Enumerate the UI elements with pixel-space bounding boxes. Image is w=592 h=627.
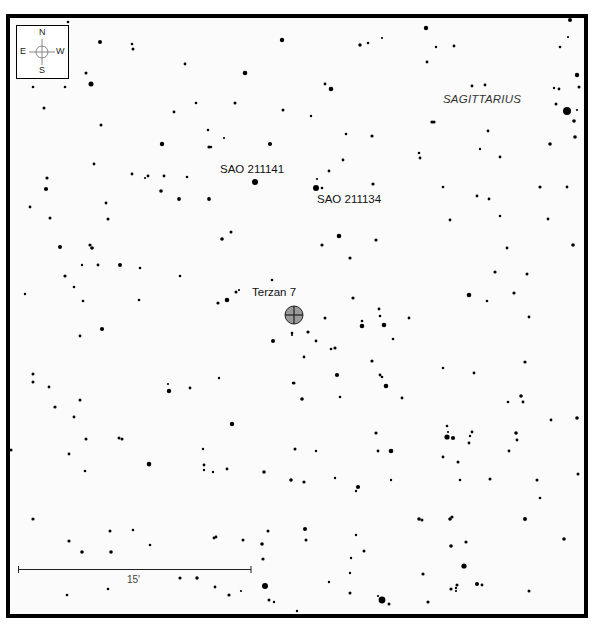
star (189, 387, 192, 390)
star (85, 438, 88, 441)
star (334, 477, 336, 479)
star (377, 595, 379, 597)
star (216, 301, 219, 304)
star (207, 129, 210, 132)
star (419, 157, 422, 160)
star (159, 189, 163, 193)
star (424, 26, 428, 30)
star (449, 544, 453, 548)
star (577, 473, 580, 476)
star (260, 542, 264, 546)
target-label-terzan-7: Terzan 7 (252, 286, 296, 298)
star (382, 323, 387, 328)
star (305, 539, 308, 542)
star (506, 247, 509, 250)
star (167, 383, 169, 385)
star (29, 206, 32, 209)
star (203, 469, 205, 471)
star (118, 263, 122, 267)
star (330, 348, 333, 351)
star (24, 293, 26, 295)
star (426, 600, 429, 603)
star (442, 367, 445, 370)
star (479, 148, 481, 150)
star (273, 601, 275, 603)
star (303, 356, 306, 359)
star (446, 425, 449, 428)
star (523, 360, 526, 363)
star (536, 479, 539, 482)
star (66, 594, 69, 597)
star (320, 243, 323, 246)
star (526, 273, 529, 276)
star (296, 610, 298, 612)
star (576, 109, 578, 111)
star (324, 83, 327, 86)
star (195, 576, 198, 579)
star (550, 419, 553, 422)
star (519, 394, 523, 398)
star (522, 401, 525, 404)
star (444, 434, 449, 439)
star (97, 264, 100, 267)
star (363, 550, 366, 553)
star (203, 464, 206, 467)
star (32, 86, 35, 89)
star (348, 256, 351, 259)
star (220, 237, 224, 241)
star (107, 218, 110, 221)
star (469, 435, 471, 437)
star (82, 300, 85, 303)
star (80, 550, 84, 554)
star (315, 450, 317, 452)
star (558, 88, 561, 91)
star (310, 115, 312, 117)
star (81, 264, 83, 266)
star (453, 45, 456, 48)
star (121, 438, 124, 441)
star (566, 186, 569, 189)
star (361, 320, 364, 323)
star (388, 603, 391, 606)
star (417, 517, 421, 521)
star (73, 286, 76, 289)
star (435, 46, 437, 48)
star (235, 291, 238, 294)
star (486, 300, 489, 303)
star (67, 21, 70, 24)
star (85, 72, 88, 75)
star (339, 396, 342, 399)
compass-rose: N S E W (16, 25, 69, 79)
star (173, 111, 176, 114)
star (32, 373, 35, 376)
globular-cluster-icon (285, 306, 303, 324)
star (573, 135, 577, 139)
star (316, 178, 318, 180)
star (392, 338, 395, 341)
star (107, 588, 110, 591)
star (160, 142, 164, 146)
star (377, 450, 380, 453)
star (218, 377, 220, 379)
scale-bar (18, 566, 252, 573)
star (484, 84, 487, 87)
star (63, 274, 66, 277)
star (384, 384, 389, 389)
star (212, 471, 214, 473)
star (49, 217, 52, 220)
star (215, 536, 218, 539)
star (79, 399, 82, 402)
star (408, 317, 411, 320)
star (195, 102, 198, 105)
star (68, 453, 71, 456)
star (225, 298, 230, 303)
star (539, 497, 542, 500)
star (464, 540, 467, 543)
star (461, 563, 466, 568)
star (381, 376, 384, 379)
star (79, 335, 82, 338)
star (139, 267, 142, 270)
star (514, 431, 518, 435)
star (292, 382, 294, 384)
star (488, 198, 491, 201)
